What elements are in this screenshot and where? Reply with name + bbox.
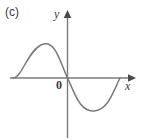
figure-panel-c: (c) y x 0 bbox=[0, 0, 143, 140]
origin-label: 0 bbox=[56, 79, 62, 92]
axis-label-y: y bbox=[54, 8, 59, 21]
graph-plot bbox=[0, 0, 143, 140]
axis-label-x: x bbox=[125, 80, 130, 93]
y-axis-arrow-icon bbox=[64, 10, 72, 18]
